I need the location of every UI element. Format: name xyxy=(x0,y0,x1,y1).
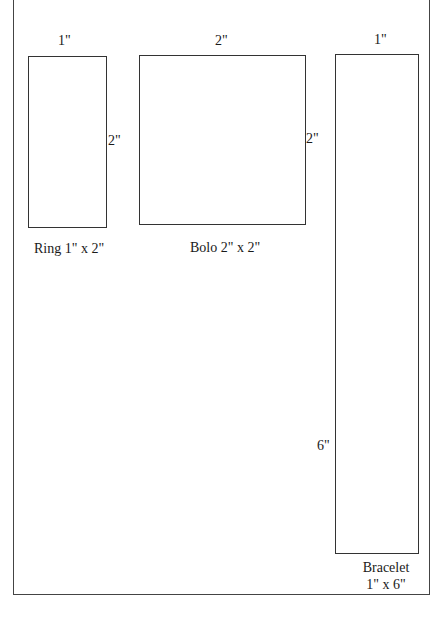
bolo-name-label: Bolo 2" x 2" xyxy=(190,240,260,256)
ring-height-label: 2" xyxy=(108,133,121,149)
ring-template-box xyxy=(28,56,107,228)
bracelet-width-label: 1" xyxy=(374,32,387,48)
bolo-height-label: 2" xyxy=(306,131,319,147)
bolo-template-box xyxy=(139,55,306,225)
ring-name-label: Ring 1" x 2" xyxy=(34,241,104,257)
bracelet-height-label: 6" xyxy=(317,438,330,454)
bracelet-name-label-line2: 1" x 6" xyxy=(356,577,416,593)
ring-width-label: 1" xyxy=(58,33,71,49)
bracelet-template-box xyxy=(335,54,419,554)
bracelet-name-label-line1: Bracelet xyxy=(356,560,416,576)
bolo-width-label: 2" xyxy=(215,33,228,49)
